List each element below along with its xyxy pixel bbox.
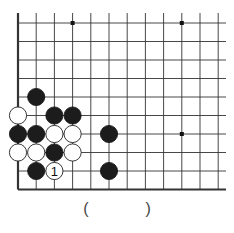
white-stone-icon [9,144,26,161]
move-number-label: 1 [51,164,58,179]
white-stone-icon [28,144,45,161]
black-stone-icon [9,125,26,142]
white-stone-icon [9,107,26,124]
black-stone-icon [100,162,117,179]
star-point-icon [71,21,75,25]
black-stone-icon [100,125,117,142]
black-stone-icon [46,107,63,124]
go-board: 1 [0,0,234,200]
white-stone-icon [64,144,81,161]
black-stone-icon [28,125,45,142]
open-paren: ( [83,200,88,218]
black-stone-icon [28,88,45,105]
black-stone-icon [28,162,45,179]
close-paren: ) [145,200,150,218]
white-stone-icon [46,125,63,142]
black-stone-icon [64,107,81,124]
star-point-icon [180,132,184,136]
star-point-icon [180,21,184,25]
answer-blank: ( ) [0,200,234,218]
white-stone-icon [64,125,81,142]
black-stone-icon [46,144,63,161]
